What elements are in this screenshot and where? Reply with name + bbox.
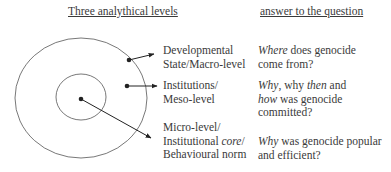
answer-macro: Where does genocidecome from? — [258, 44, 356, 71]
answer-line-2: and efficient? — [258, 149, 382, 163]
answer-line-1: Where does genocide — [258, 44, 356, 58]
answer-line-1: Why, why then and — [258, 79, 346, 93]
arrow-macro — [129, 54, 154, 60]
answer-meso: Why, why then andhow was genocidecommitt… — [258, 79, 346, 120]
label-macro-line2: State/Macro-level — [163, 58, 245, 72]
answer-line-1: Why was genocide popular — [258, 135, 382, 149]
label-macro: Developmental State/Macro-level — [163, 44, 245, 71]
label-micro-line1: Micro-level/ — [163, 121, 246, 135]
label-macro-line1: Developmental — [163, 44, 245, 58]
label-meso-line1: Institutions/ — [163, 79, 218, 93]
arrow-micro — [81, 99, 151, 138]
answer-micro: Why was genocide popularand efficient? — [258, 135, 382, 162]
answer-line-3: committed? — [258, 106, 346, 120]
label-meso: Institutions/ Meso-level — [163, 79, 218, 106]
label-micro-italic-word: core — [221, 135, 241, 147]
answer-line-2: how was genocide — [258, 93, 346, 107]
label-micro: Micro-level/ Institutional core/ Behavio… — [163, 121, 246, 162]
label-micro-line2: Institutional core/ — [163, 135, 246, 149]
label-micro-line3: Behavioural norm — [163, 148, 246, 162]
answer-line-2: come from? — [258, 58, 356, 72]
label-meso-line2: Meso-level — [163, 93, 218, 107]
